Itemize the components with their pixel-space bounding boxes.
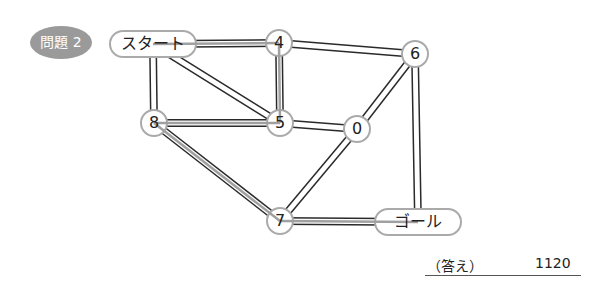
answer-line: （答え） 1120 [425,253,581,276]
edge-n0-n7 [278,127,360,223]
edge-n4-n6 [279,40,416,57]
path-highlight-start-n4 [153,43,279,44]
graph-nodes [110,30,461,235]
edge-n6-goal [412,54,421,222]
answer-value: 1120 [535,255,571,271]
path-highlight-n4-n5 [279,43,280,123]
node-n0 [344,116,370,142]
node-n6 [402,41,428,67]
answer-label: （答え） [427,255,483,275]
path-highlight-n7-goal [280,221,418,222]
path-highlight-n8-n7 [154,123,280,221]
graph-diagram [0,0,593,288]
